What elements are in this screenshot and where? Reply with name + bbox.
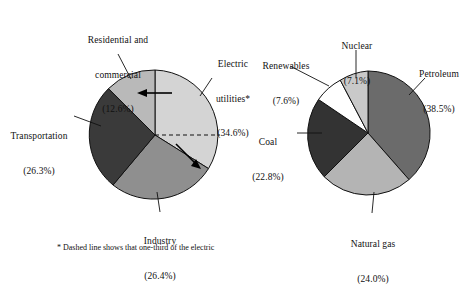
pie-label-nuclear-line1: Nuclear (328, 41, 386, 53)
pie-label-renewables-value: (7.6%) (249, 96, 323, 108)
pie-label-coal-line1: Coal (239, 137, 297, 149)
pie-label-residential-commercial-line1: Residential and (48, 35, 188, 47)
pie-label-natural-gas-line1: Natural gas (334, 239, 412, 251)
pie-label-natural-gas: Natural gas (24.0%) (334, 216, 412, 289)
pie-label-coal-value: (22.8%) (239, 172, 297, 184)
pie-label-petroleum-value: (38.5%) (408, 104, 470, 116)
pie-label-petroleum: Petroleum (38.5%) (408, 46, 470, 138)
pie-label-natural-gas-value: (24.0%) (334, 274, 412, 286)
pie-label-industry-value: (26.4%) (124, 271, 196, 283)
pie-label-renewables-line1: Renewables (249, 61, 323, 73)
pie-label-petroleum-line1: Petroleum (408, 69, 470, 81)
figure-footnote: * Dashed line shows that one-third of th… (57, 243, 214, 253)
pie-label-nuclear: Nuclear (7.1%) (328, 18, 386, 110)
pie-label-coal: Coal (22.8%) (239, 114, 297, 206)
pie-label-transportation-line1: Transportation (1, 131, 77, 143)
pie-label-residential-commercial-line2: commercial (48, 70, 188, 82)
pie-label-transportation: Transportation (26.3%) (1, 108, 77, 200)
pie-label-nuclear-value: (7.1%) (328, 76, 386, 88)
pie-label-transportation-value: (26.3%) (1, 166, 77, 178)
